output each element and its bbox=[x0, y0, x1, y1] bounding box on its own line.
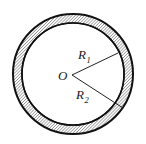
inner-radius-label-sub: 1 bbox=[86, 55, 90, 65]
annulus-figure: O R1 R2 bbox=[0, 0, 146, 144]
center-point-label: O bbox=[58, 68, 68, 83]
outer-radius-label-main: R bbox=[75, 87, 84, 102]
inner-radius-label-main: R bbox=[77, 47, 86, 62]
annulus-diagram: O R1 R2 bbox=[0, 0, 146, 144]
